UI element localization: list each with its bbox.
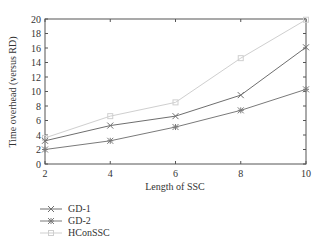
y-tick-label: 16 bbox=[31, 43, 41, 54]
y-tick-label: 8 bbox=[36, 101, 41, 112]
plot-frame bbox=[45, 19, 306, 164]
x-tick-label: 2 bbox=[43, 168, 48, 179]
square-marker-icon bbox=[40, 227, 62, 239]
y-tick-label: 18 bbox=[31, 28, 41, 39]
x-tick-label: 4 bbox=[108, 168, 113, 179]
legend-label: GD-2 bbox=[68, 215, 91, 227]
x-marker-icon bbox=[40, 203, 62, 215]
plot-area: 02468101214161820246810 bbox=[31, 14, 311, 180]
x-tick-label: 10 bbox=[301, 168, 311, 179]
y-tick-label: 12 bbox=[31, 72, 41, 83]
legend-label: HConSSC bbox=[68, 227, 110, 239]
y-tick-label: 10 bbox=[31, 86, 41, 97]
x-tick-label: 6 bbox=[173, 168, 178, 179]
legend-item-gd2: GD-2 bbox=[40, 215, 110, 227]
y-tick-label: 14 bbox=[31, 57, 41, 68]
legend-item-hconssc: HConSSC bbox=[40, 227, 110, 239]
series-line bbox=[45, 20, 306, 138]
asterisk-marker-icon bbox=[40, 215, 62, 227]
legend: GD-1 GD-2 HConSSC bbox=[40, 203, 110, 239]
y-tick-label: 0 bbox=[36, 159, 41, 170]
y-axis-label: Time overhead (versus RD) bbox=[7, 36, 19, 147]
series-line bbox=[45, 89, 306, 149]
legend-label: GD-1 bbox=[68, 203, 91, 215]
x-axis-label: Length of SSC bbox=[145, 181, 205, 192]
y-tick-label: 2 bbox=[36, 144, 41, 155]
x-tick-label: 8 bbox=[238, 168, 243, 179]
y-tick-label: 20 bbox=[31, 14, 41, 25]
legend-item-gd1: GD-1 bbox=[40, 203, 110, 215]
y-tick-label: 6 bbox=[36, 115, 41, 126]
y-tick-label: 4 bbox=[36, 130, 41, 141]
